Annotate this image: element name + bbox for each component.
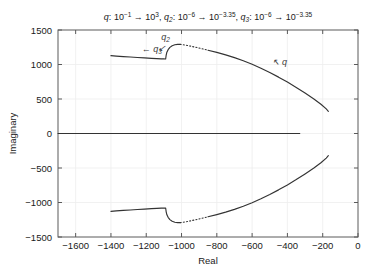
- x-tick-label: −1600: [62, 240, 89, 251]
- y-tick-label: −500: [31, 163, 52, 174]
- y-tick-label: 1000: [31, 59, 52, 70]
- series-upper-branch-solid-right: [208, 50, 328, 111]
- y-tick-label: −1500: [25, 232, 52, 243]
- y-tick-label: −1000: [25, 197, 52, 208]
- y-tick-label: 0: [47, 128, 52, 139]
- x-tick-label: −1400: [98, 240, 125, 251]
- y-tick-label: 500: [36, 94, 52, 105]
- series-lower-branch-dotted: [180, 217, 208, 223]
- x-tick-label: −200: [312, 240, 333, 251]
- x-tick-label: −600: [241, 240, 262, 251]
- annotation-label-q2: q2: [161, 32, 170, 43]
- x-tick-label: −800: [206, 240, 227, 251]
- annotation-arrow-q2: ↙: [158, 43, 166, 53]
- y-tick-labels: −1500−1000−500050010001500: [25, 25, 52, 243]
- curve-annotations: ← q3q2↙↖ q: [142, 32, 287, 67]
- series-lower-branch-solid-right: [208, 156, 328, 217]
- y-tick-label: 1500: [31, 25, 52, 36]
- x-tick-label: −1000: [168, 240, 195, 251]
- series-upper-branch-dotted: [180, 44, 208, 50]
- x-tick-labels: −1600−1400−1200−1000−800−600−400−2000: [62, 240, 360, 251]
- x-axis-label: Real: [198, 255, 218, 266]
- x-tick-label: −400: [277, 240, 298, 251]
- x-tick-label: −1200: [133, 240, 160, 251]
- y-axis-label: Imaginary: [7, 112, 18, 154]
- series-lower-branch-solid-left: [111, 208, 180, 223]
- figure-container: −1600−1400−1200−1000−800−600−400−2000 −1…: [0, 0, 376, 270]
- x-tick-label: 0: [355, 240, 360, 251]
- chart-title-text: q: 10−1 → 103, q2: 10−6 → 10−3.35, q3: 1…: [104, 11, 313, 23]
- chart-title: q: 10−1 → 103, q2: 10−6 → 10−3.35, q3: 1…: [104, 11, 313, 23]
- scatter-plot-canvas: −1600−1400−1200−1000−800−600−400−2000 −1…: [0, 0, 376, 270]
- annotation-q: ↖ q: [272, 57, 288, 67]
- annotation-label-q: ↖ q: [272, 57, 288, 67]
